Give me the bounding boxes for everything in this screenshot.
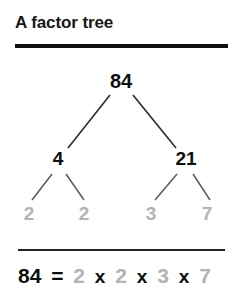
equation-factor-1: 2 (73, 264, 85, 287)
tree-node-root: 84 (110, 70, 132, 93)
edge-84-to-21 (133, 95, 176, 148)
equation-factor-2: 2 (115, 264, 127, 287)
edge-4-to-2b (66, 174, 84, 200)
tree-node-branch-right: 21 (175, 148, 196, 170)
edge-84-to-4 (68, 95, 110, 148)
equation-equals: = (51, 264, 63, 287)
factorization-equation: 84 = 2 x 2 x 3 x 7 (18, 261, 211, 292)
tree-leaf-3: 3 (146, 203, 157, 225)
equation-factor-3: 3 (157, 264, 169, 287)
tree-leaf-4: 7 (202, 203, 213, 225)
tree-leaf-1: 2 (24, 203, 35, 225)
tree-leaf-2: 2 (79, 203, 90, 225)
edge-4-to-2a (32, 174, 52, 200)
equation-product: 84 (18, 264, 41, 287)
edge-21-to-7 (193, 174, 210, 200)
tree-node-branch-left: 4 (53, 148, 64, 170)
equation-times-1: x (95, 266, 106, 287)
equation-times-3: x (179, 266, 190, 287)
equation-factor-4: 7 (199, 264, 211, 287)
factor-tree-figure: A factor tree 84 4 21 2 2 3 7 84 = 2 x 2… (0, 0, 244, 304)
equation-times-2: x (137, 266, 148, 287)
edge-21-to-3 (155, 174, 177, 200)
equation-divider-rule (18, 249, 225, 251)
